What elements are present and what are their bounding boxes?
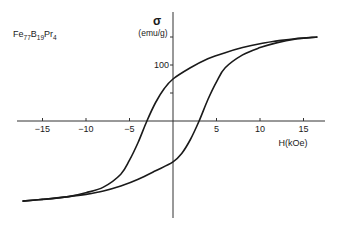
sample-composition-label: Fe77B19Pr4 <box>13 29 57 41</box>
curves <box>23 37 318 201</box>
x-axis-label: H(kOe) <box>279 138 308 148</box>
curve-ascending-branch <box>23 37 318 201</box>
x-tick-label: −5 <box>124 124 134 134</box>
x-tick-label: −10 <box>78 124 93 134</box>
hysteresis-chart: −15−10−551015100 Fe77B19Pr4 σ (emu/g) H(… <box>0 0 341 228</box>
y-axis-label: σ <box>153 14 161 28</box>
x-tick-label: −15 <box>35 124 50 134</box>
curve-descending-branch <box>23 37 318 201</box>
x-tick-label: 5 <box>214 124 219 134</box>
x-tick-label: 15 <box>298 124 308 134</box>
y-tick-label: 100 <box>154 60 169 70</box>
ticks: −15−10−551015100 <box>35 37 309 134</box>
y-axis-unit-label: (emu/g) <box>138 28 167 38</box>
x-tick-label: 10 <box>255 124 265 134</box>
